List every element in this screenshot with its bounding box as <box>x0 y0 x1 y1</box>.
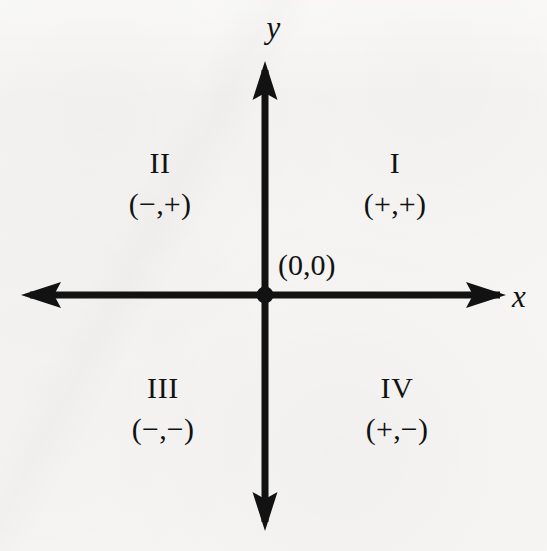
quadrant-4-label: IV (+,−) <box>312 373 482 444</box>
quadrant-1-label: I (+,+) <box>310 148 480 219</box>
quadrant-3-numeral: III <box>78 373 248 403</box>
x-axis-label: x <box>512 281 526 312</box>
quadrant-3-label: III (−,−) <box>78 373 248 444</box>
quadrant-1-signs: (+,+) <box>310 189 480 219</box>
quadrant-1-numeral: I <box>310 148 480 178</box>
quadrant-2-label: II (−,+) <box>75 148 245 219</box>
axes-graphic <box>0 0 547 551</box>
quadrant-4-signs: (+,−) <box>312 414 482 444</box>
y-axis-label: y <box>0 12 547 43</box>
quadrant-2-signs: (−,+) <box>75 189 245 219</box>
origin-coordinate-label: (0,0) <box>278 250 335 280</box>
quadrant-3-signs: (−,−) <box>78 414 248 444</box>
quadrant-2-numeral: II <box>75 148 245 178</box>
quadrant-4-numeral: IV <box>312 373 482 403</box>
origin-dot <box>257 287 274 304</box>
coordinate-plane-figure: y x II (−,+) I (+,+) III (−,−) IV (+,−) … <box>0 0 547 551</box>
